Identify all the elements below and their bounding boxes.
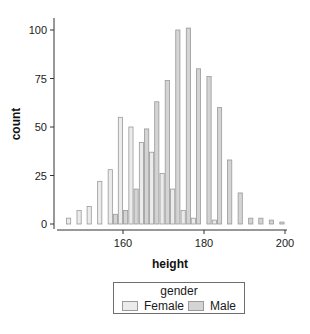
- bar-male: [124, 210, 128, 224]
- bar-female: [191, 218, 195, 224]
- legend-item-female: Female: [122, 299, 184, 313]
- bar-male: [249, 218, 253, 224]
- bar-male: [196, 69, 200, 224]
- bar-female: [139, 143, 143, 224]
- bar-male: [186, 28, 190, 224]
- bar-male: [145, 129, 149, 224]
- bar-male: [176, 30, 180, 224]
- x-axis-title: height: [152, 257, 188, 271]
- bar-female: [98, 181, 102, 224]
- legend-label-male: Male: [210, 299, 236, 313]
- bar-female: [66, 218, 70, 224]
- y-tick-label: 0: [41, 218, 47, 230]
- bar-male: [269, 220, 273, 224]
- y-tick-label: 75: [35, 73, 47, 85]
- bar-female: [77, 210, 81, 224]
- bar-female: [108, 170, 112, 224]
- bar-male: [228, 160, 232, 224]
- bar-female: [87, 207, 91, 224]
- bar-male: [207, 77, 211, 224]
- legend-label-female: Female: [144, 299, 184, 313]
- x-tick-label: 200: [276, 237, 294, 249]
- y-axis: 0255075100: [29, 18, 54, 230]
- bar-male: [155, 102, 159, 224]
- bar-male: [134, 189, 138, 224]
- bar-male: [217, 108, 221, 224]
- legend-title: gender: [114, 284, 244, 298]
- x-tick-label: 160: [114, 237, 132, 249]
- bar-male: [165, 80, 169, 224]
- bar-female: [149, 152, 153, 224]
- bar-female: [118, 117, 122, 224]
- bars: [66, 28, 284, 224]
- x-axis: 160180200: [57, 230, 294, 249]
- bar-female: [212, 220, 216, 224]
- legend-key-female: [122, 301, 138, 311]
- bar-male: [113, 214, 117, 224]
- y-tick-label: 50: [35, 121, 47, 133]
- bar-male: [280, 222, 284, 224]
- y-tick-label: 100: [29, 24, 47, 36]
- y-axis-title: count: [9, 108, 23, 141]
- bar-male: [259, 218, 263, 224]
- y-tick-label: 25: [35, 170, 47, 182]
- bar-male: [238, 193, 242, 224]
- x-tick-label: 180: [195, 237, 213, 249]
- bar-female: [181, 210, 185, 224]
- bar-female: [129, 127, 133, 224]
- bar-female: [171, 189, 175, 224]
- bar-female: [160, 174, 164, 224]
- legend-key-male: [188, 301, 204, 311]
- legend-item-male: Male: [188, 299, 236, 313]
- legend: gender Female Male: [113, 282, 245, 314]
